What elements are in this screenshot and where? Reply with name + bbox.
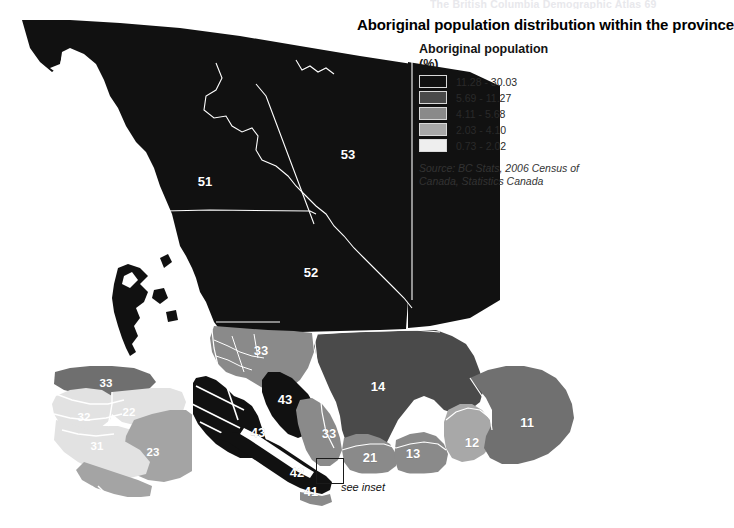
map-region-label-11: 11 — [520, 415, 534, 430]
map-region-label-52: 52 — [304, 265, 318, 280]
map-region-label-33-north: 33 — [254, 343, 268, 358]
see-inset-caption: see inset — [341, 481, 385, 493]
map-region-label-13: 13 — [406, 446, 420, 461]
map-region-label-43-coast: 43 — [251, 425, 265, 440]
source-note: Source: BC Stats, 2006 Census of Canada,… — [419, 162, 609, 188]
legend-label: 2.03 - 4.10 — [456, 124, 506, 136]
region-12 — [444, 404, 494, 462]
map-region-label-41: 41 — [304, 484, 318, 499]
legend-label: 4.11 - 5.68 — [456, 108, 505, 120]
legend-label: 0.73 - 2.02 — [456, 140, 506, 152]
legend-label: 5.69 - 11.27 — [456, 92, 511, 104]
map-region-label-inset-32: 32 — [78, 411, 91, 423]
map-region-label-inset-31: 31 — [91, 440, 104, 452]
map-region-label-53: 53 — [341, 147, 355, 162]
island-coastal-islets-3 — [166, 310, 178, 322]
island-coastal-islets-2 — [152, 288, 168, 304]
legend-title: Aboriginal population — [419, 42, 619, 57]
region-13 — [394, 432, 448, 474]
inset-locator-box — [316, 458, 344, 484]
inset-map: 3332223123 — [45, 364, 194, 502]
legend-swatch — [419, 91, 447, 104]
map-region-label-51: 51 — [198, 174, 212, 189]
legend-swatch — [419, 139, 447, 152]
legend-row: 2.03 - 4.10 — [419, 122, 619, 137]
legend-row: 4.11 - 5.68 — [419, 106, 619, 121]
map-region-label-inset-33: 33 — [100, 377, 113, 389]
map-region-label-33-south: 33 — [322, 426, 336, 441]
legend-row: 0.73 - 2.02 — [419, 138, 619, 153]
map-region-label-21: 21 — [363, 450, 377, 465]
map-region-label-43-north: 43 — [278, 392, 292, 407]
map-region-label-inset-23: 23 — [147, 446, 160, 458]
legend-row: 5.69 - 11.27 — [419, 90, 619, 105]
legend-swatch — [419, 107, 447, 120]
legend-row: 11.28 - 30.03 — [419, 74, 619, 89]
legend-class-list: 11.28 - 30.035.69 - 11.274.11 - 5.682.03… — [419, 74, 619, 153]
map-region-label-inset-22: 22 — [123, 406, 136, 418]
island-coastal-islets — [160, 254, 172, 268]
legend-swatch — [419, 123, 447, 136]
legend-unit: (%) — [419, 57, 619, 72]
map-legend: Aboriginal population (%) 11.28 - 30.035… — [419, 42, 619, 154]
legend-swatch — [419, 75, 447, 88]
map-region-label-42: 42 — [290, 465, 304, 480]
legend-label: 11.28 - 30.03 — [456, 76, 517, 88]
map-region-label-14: 14 — [371, 379, 386, 394]
map-region-label-12: 12 — [465, 435, 479, 450]
